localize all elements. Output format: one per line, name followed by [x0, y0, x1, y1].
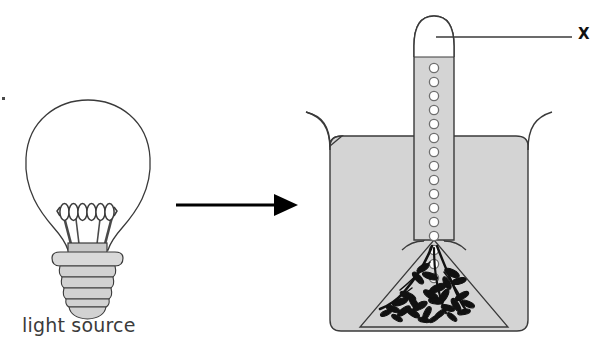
beaker-funnel-assembly	[306, 16, 572, 331]
bulb-screw-threads	[59, 266, 115, 307]
bubble	[429, 189, 438, 198]
arrow-head	[274, 194, 298, 216]
bulb-glass-envelope	[26, 100, 150, 250]
bubble	[429, 231, 438, 240]
light-source-label: light source	[22, 314, 136, 336]
gas-collection-label-x: X	[578, 25, 590, 43]
bubble	[429, 175, 438, 184]
diagram-canvas: light source X	[0, 0, 606, 352]
bubble	[429, 217, 438, 226]
bubble	[429, 105, 438, 114]
stray-speck	[2, 97, 5, 100]
bubble	[429, 63, 438, 72]
bubble	[429, 77, 438, 86]
bubble	[429, 203, 438, 212]
beaker-rim-right-flare	[528, 112, 552, 150]
bubble	[429, 147, 438, 156]
diagram-svg	[0, 0, 606, 352]
bubble	[429, 161, 438, 170]
bubble	[429, 91, 438, 100]
light-bulb-figure	[26, 100, 150, 319]
process-arrow	[176, 194, 298, 216]
bubble	[429, 119, 438, 128]
bulb-base-flange	[52, 252, 123, 266]
beaker-rim-left-flare	[306, 112, 330, 150]
bubble	[429, 133, 438, 142]
